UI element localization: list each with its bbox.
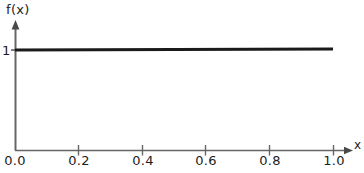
x-tick-label-3: 0.6 xyxy=(195,153,216,168)
data-series-line xyxy=(15,49,333,50)
x-tick-label-5: 1.0 xyxy=(323,153,344,168)
x-tick-label-4: 0.8 xyxy=(259,153,280,168)
arrow-up-icon xyxy=(12,20,20,30)
x-tick-label-2: 0.4 xyxy=(132,153,153,168)
y-axis-label: f(x) xyxy=(6,2,30,17)
x-tick-label-1: 0.2 xyxy=(68,153,89,168)
plot-graphics xyxy=(0,0,364,173)
x-tick-label-0: 0.0 xyxy=(4,153,25,168)
y-tick-label-1: 1 xyxy=(2,43,10,58)
arrow-right-icon xyxy=(344,147,353,154)
x-axis-label: x xyxy=(354,138,361,152)
plot-canvas: f(x) x 1 0.0 0.2 0.4 0.6 0.8 1.0 xyxy=(0,0,364,173)
